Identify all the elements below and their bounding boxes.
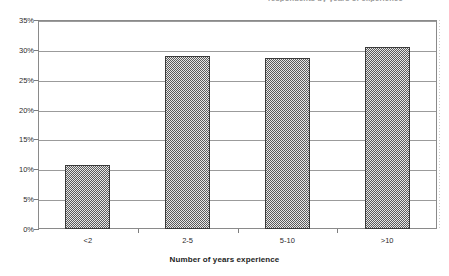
y-axis-tick-label: 5% [8, 195, 34, 204]
y-axis-tick-label: 10% [8, 165, 34, 174]
y-axis-tick [34, 169, 39, 170]
x-axis-title: Number of years experience [0, 255, 449, 264]
y-axis-tick [34, 110, 39, 111]
bar [165, 56, 210, 229]
y-axis-tick-label: 35% [8, 16, 34, 25]
x-axis-tick [337, 229, 338, 233]
bar [265, 58, 310, 229]
y-axis-tick [34, 229, 39, 230]
y-axis-tick-label: 0% [8, 225, 34, 234]
x-axis-tick-label: 2-5 [153, 236, 223, 245]
y-axis-tick-label: 20% [8, 105, 34, 114]
y-axis-tick [34, 20, 39, 21]
bar [365, 47, 410, 229]
y-axis-tick-label: 30% [8, 45, 34, 54]
x-axis-tick-label: <2 [53, 236, 123, 245]
y-axis-tick [34, 50, 39, 51]
y-axis-tick [34, 139, 39, 140]
gridline [39, 21, 436, 22]
x-axis-tick-label: 5-10 [252, 236, 322, 245]
y-axis-tick [34, 80, 39, 81]
x-axis-tick [238, 229, 239, 233]
bar-chart-figure: respondents by years of experience 0%5%1… [0, 0, 449, 276]
bar [65, 165, 110, 229]
x-axis-tick [138, 229, 139, 233]
x-axis-tick-label: >10 [352, 236, 422, 245]
plot-edge-artifact [439, 20, 440, 230]
y-axis-tick-label: 25% [8, 75, 34, 84]
y-axis-tick [34, 199, 39, 200]
y-axis-tick-label: 15% [8, 135, 34, 144]
chart-title: respondents by years of experience [268, 0, 449, 2]
